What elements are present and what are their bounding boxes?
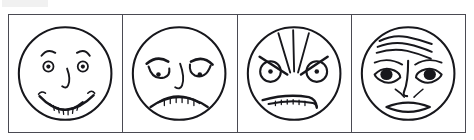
right-nostril-crease xyxy=(414,89,423,97)
nose-line xyxy=(403,61,408,96)
forehead-wrinkle-3 xyxy=(376,50,430,59)
figure-root xyxy=(0,0,474,140)
left-cheek-crease xyxy=(39,92,46,94)
nose-line xyxy=(62,69,69,88)
face-outline xyxy=(133,27,226,120)
left-eyebrow xyxy=(374,60,402,65)
right-pupil xyxy=(198,72,203,77)
scan-artifact xyxy=(2,0,48,7)
nose-line xyxy=(175,64,183,89)
right-eyebrow xyxy=(301,57,328,75)
face-outline xyxy=(19,27,112,120)
left-eyebrow xyxy=(147,59,169,64)
angry-face-drawing xyxy=(238,15,351,132)
right-eyebrow xyxy=(191,59,213,65)
right-eyebrow xyxy=(415,60,442,65)
left-eyebrow xyxy=(41,51,55,56)
right-pupil xyxy=(81,65,85,69)
panel-strip xyxy=(8,14,466,133)
panel-sad[interactable] xyxy=(123,15,237,132)
panel-angry[interactable] xyxy=(238,15,352,132)
left-pupil xyxy=(156,72,161,77)
right-eyebrow xyxy=(77,51,90,56)
happy-face-drawing xyxy=(9,15,122,132)
mouth-smile-upper xyxy=(40,95,94,110)
left-pupil xyxy=(380,69,392,80)
left-eyebrow xyxy=(259,57,287,75)
fear-face-drawing xyxy=(352,15,465,132)
right-cheek-crease xyxy=(88,91,95,93)
right-pupil xyxy=(423,69,435,80)
furrow-line-2 xyxy=(293,30,294,71)
left-pupil xyxy=(46,65,50,69)
sad-face-drawing xyxy=(123,15,236,132)
left-pupil xyxy=(268,69,273,74)
right-pupil xyxy=(314,69,319,74)
panel-happy[interactable] xyxy=(9,15,123,132)
panel-fear[interactable] xyxy=(352,15,465,132)
mouth-open-oval xyxy=(386,103,429,112)
